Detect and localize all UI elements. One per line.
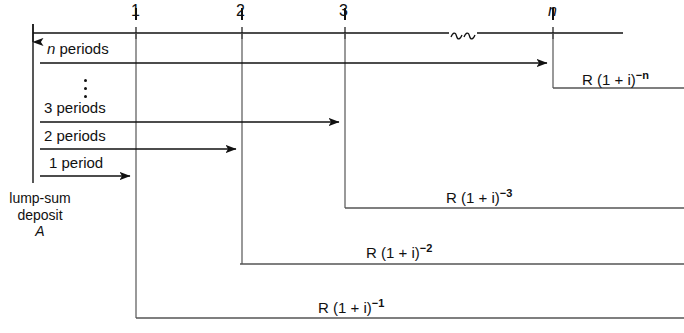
formula-3-exponent: −3 [500, 187, 513, 199]
period-label-2: 2 periods [44, 128, 106, 143]
formula-r-1-plus-i-exp-3: R (1 + i)−3 [446, 188, 512, 205]
formula-n-base: R (1 + i) [582, 71, 636, 88]
tick-label-1: 1 [131, 3, 140, 19]
lump-sum-deposit-label: lump-sum deposit A [4, 190, 76, 240]
formula-2-base: R (1 + i) [366, 244, 420, 261]
deposit-line-1: lump-sum [4, 190, 76, 207]
period-label-2-rest: periods [52, 127, 105, 144]
formula-2-exponent: −2 [420, 242, 433, 254]
tick-label-2: 2 [236, 3, 245, 19]
formula-r-1-plus-i-exp-n: R (1 + i)−n [582, 70, 649, 87]
formula-1-base: R (1 + i) [318, 299, 372, 316]
formula-r-1-plus-i-exp-2: R (1 + i)−2 [366, 243, 432, 260]
period-label-n: n periods [47, 41, 109, 56]
formula-n-exponent: −n [636, 69, 649, 81]
deposit-line-2: deposit [4, 207, 76, 224]
tick-label-n: n [548, 3, 557, 19]
formula-3-base: R (1 + i) [446, 189, 500, 206]
period-drop-lines [136, 33, 553, 318]
period-label-3-rest: periods [52, 99, 105, 116]
tick-label-3: 3 [339, 3, 348, 19]
period-label-3: 3 periods [44, 100, 106, 115]
period-label-1: 1 period [49, 155, 103, 170]
formula-r-1-plus-i-exp-1: R (1 + i)−1 [318, 298, 384, 315]
axis-break-symbol [451, 33, 475, 39]
formula-1-exponent: −1 [372, 297, 385, 309]
main-timeline-axis [33, 24, 623, 42]
period-label-1-rest: period [57, 154, 103, 171]
period-label-n-rest: periods [55, 40, 108, 57]
figure-canvas: 1 2 3 n n periods 3 periods 2 periods 1 … [0, 0, 684, 333]
deposit-amount-A: A [4, 223, 76, 240]
